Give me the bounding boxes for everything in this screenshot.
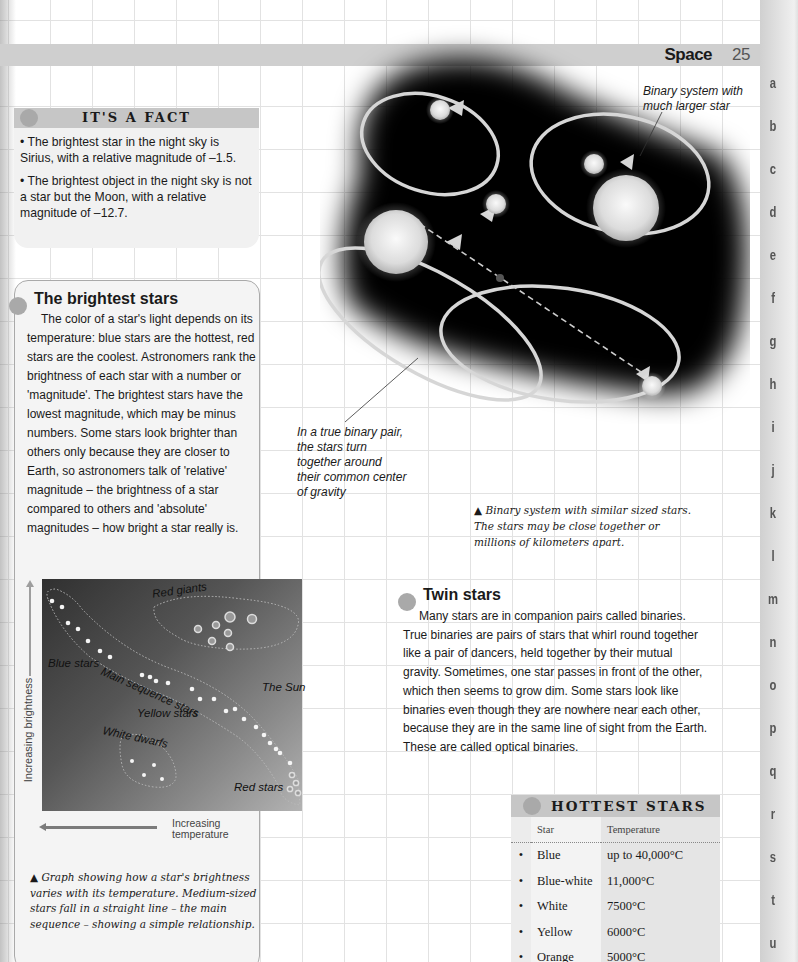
cell-star: Orange (531, 945, 601, 962)
bullet-circle-icon (523, 797, 541, 815)
column-header-temperature: Temperature (601, 817, 720, 843)
cell-temperature: 7500°C (601, 894, 720, 920)
column-header-star: Star (531, 817, 601, 843)
row-bullet: • (511, 920, 531, 946)
binary-system-caption: ▲ Binary system with similar sized stars… (474, 502, 694, 550)
cell-temperature: up to 40,000°C (601, 843, 720, 869)
cell-temperature: 5000°C (601, 945, 720, 962)
callout-true-binary: In a true binary pair, the stars turn to… (297, 425, 407, 500)
cell-temperature: 6000°C (601, 920, 720, 946)
hottest-stars-header: HOTTEST STARS (511, 795, 720, 817)
cell-star: Yellow (531, 920, 601, 946)
row-bullet: • (511, 843, 531, 869)
cell-star: Blue-white (531, 869, 601, 895)
cell-star: White (531, 894, 601, 920)
row-bullet: • (511, 945, 531, 962)
twin-stars-body: Many stars are in companion pairs called… (403, 607, 713, 757)
column-header-bullet (511, 817, 531, 843)
hottest-stars-grid: Star Temperature • Blue up to 40,000°C •… (511, 817, 720, 962)
hottest-stars-table: HOTTEST STARS Star Temperature • Blue up… (511, 795, 720, 962)
row-bullet: • (511, 894, 531, 920)
hottest-stars-title: HOTTEST STARS (551, 798, 706, 814)
callout-larger-star: Binary system with much larger star (643, 84, 763, 114)
cell-temperature: 11,000°C (601, 869, 720, 895)
twin-stars-title: Twin stars (423, 586, 501, 604)
cell-star: Blue (531, 843, 601, 869)
row-bullet: • (511, 869, 531, 895)
